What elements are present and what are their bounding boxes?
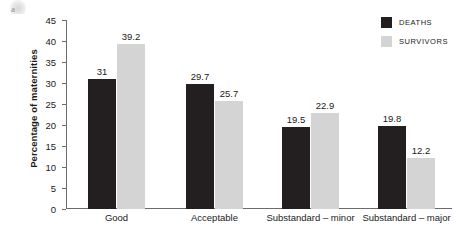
legend: DEATHS SURVIVORS — [381, 14, 448, 52]
y-tick-label: 30 — [45, 78, 56, 89]
legend-item-survivors: SURVIVORS — [381, 33, 448, 49]
bar-value-label: 29.7 — [191, 71, 210, 82]
x-category-label: Substandard – major — [362, 212, 450, 223]
legend-swatch-survivors — [381, 36, 392, 47]
bar-survivors: 25.7 — [215, 101, 243, 209]
bar-value-label: 19.8 — [383, 113, 402, 124]
bar-survivors: 22.9 — [311, 113, 339, 209]
legend-swatch-deaths — [381, 17, 392, 28]
y-tick-label: 5 — [51, 183, 56, 194]
bar-survivors: 39.2 — [117, 44, 145, 209]
bar-group: 3139.2Good — [88, 20, 145, 209]
bar-deaths: 19.5 — [282, 127, 310, 209]
y-axis-title: Percentage of maternities — [28, 14, 39, 204]
scan-artifact-glyph: a — [11, 4, 15, 14]
bar-deaths: 19.8 — [378, 126, 406, 209]
bar-deaths: 29.7 — [186, 84, 214, 209]
y-tick-label: 10 — [45, 162, 56, 173]
y-tick-label: 35 — [45, 57, 56, 68]
bar-group: 29.725.7Acceptable — [186, 20, 243, 209]
y-tick-label: 45 — [45, 15, 56, 26]
bar-value-label: 39.2 — [122, 31, 141, 42]
bar-value-label: 31 — [97, 66, 108, 77]
bar-value-label: 22.9 — [316, 100, 335, 111]
legend-label-deaths: DEATHS — [399, 18, 432, 27]
y-tick-label: 15 — [45, 141, 56, 152]
bar-chart: a Percentage of maternities 051015202530… — [0, 0, 458, 241]
bar-deaths: 31 — [88, 79, 116, 209]
x-category-label: Good — [105, 212, 128, 223]
y-tick-label: 40 — [45, 36, 56, 47]
legend-label-survivors: SURVIVORS — [399, 37, 448, 46]
x-category-label: Acceptable — [191, 212, 238, 223]
x-category-label: Substandard – minor — [266, 212, 354, 223]
y-tick-label: 0 — [51, 204, 56, 215]
bar-survivors: 12.2 — [407, 158, 435, 209]
bar-value-label: 12.2 — [412, 145, 431, 156]
bar-group: 19.522.9Substandard – minor — [282, 20, 339, 209]
y-tick: 0 — [62, 209, 66, 210]
legend-item-deaths: DEATHS — [381, 14, 448, 30]
bar-value-label: 19.5 — [287, 114, 306, 125]
bar-value-label: 25.7 — [220, 88, 239, 99]
y-tick-label: 20 — [45, 120, 56, 131]
y-tick-label: 25 — [45, 99, 56, 110]
